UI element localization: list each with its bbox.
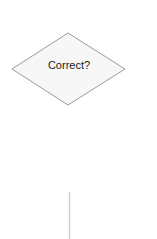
decision-label: Correct? xyxy=(12,58,126,72)
flowchart-canvas xyxy=(0,0,157,239)
